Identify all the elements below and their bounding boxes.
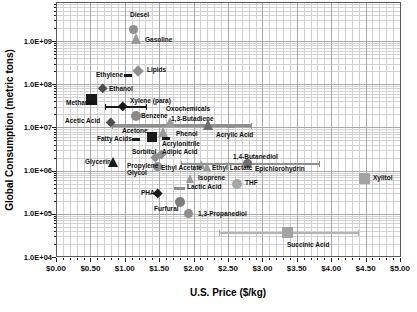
point-label: Ethanol (109, 85, 133, 92)
y-axis-title: Global Consumption (metric tons) (4, 49, 15, 211)
marker-ethanol (98, 83, 108, 93)
point-label: Sorbitol (132, 148, 157, 155)
x-axis-title: U.S. Price ($/kg) (190, 287, 266, 298)
marker-ethyl-lactate (203, 162, 211, 171)
point-label: Lactic Acid (187, 183, 221, 190)
chart-canvas: 1.0E+041.0E+051.0E+061.0E+071.0E+081.0E+… (0, 0, 417, 312)
point-label: Oxochemicals (166, 105, 210, 112)
marker-lipids (132, 65, 143, 76)
marker-succinic-acid (282, 227, 293, 238)
point-label: Phenol (176, 130, 198, 137)
point-label: 1,3-Propanediol (198, 210, 247, 217)
point-label: Glycerin (85, 158, 111, 165)
marker-acrylic-acid (227, 125, 235, 128)
point-label: Diesel (130, 11, 149, 18)
error-bar-cap (251, 123, 252, 129)
marker-benzene (131, 111, 141, 121)
error-bar-cap (105, 104, 106, 110)
point-label: Succinic Acid (287, 241, 329, 248)
marker-acetone (147, 132, 157, 142)
point-label: Furfural (154, 205, 179, 212)
marker-ethylene (124, 74, 132, 77)
point-label: Xylitol (373, 174, 393, 181)
error-bar-cap (219, 230, 220, 236)
point-label: Ethyl Lactate (212, 164, 252, 171)
point-label: 1,3-Butadiene (171, 115, 214, 122)
point-label: Gasoline (145, 36, 172, 43)
point-label: Epichlorohydrin (255, 165, 305, 172)
point-label: Benzene (141, 112, 168, 119)
error-bar-cap (146, 104, 147, 110)
marker-gasoline (131, 33, 141, 44)
point-label: Lipids (147, 66, 166, 73)
point-label: Acetic Acid (65, 117, 100, 124)
point-label: Ethylene (96, 71, 123, 78)
marker-thf (232, 179, 242, 189)
point-label: Acrylonitrile (162, 140, 200, 147)
point-label: Propylene Glycol (127, 162, 158, 176)
point-label: Xylene (para) (130, 97, 171, 104)
marker-xylene-para- (118, 102, 128, 112)
marker-lactic-acid (174, 187, 185, 190)
point-label: Adipic Acid (162, 148, 198, 155)
point-label: Acrylic Acid (216, 131, 253, 138)
point-label: Isoprene (198, 174, 225, 181)
point-label: 1,4-Butanediol (233, 153, 278, 160)
point-label: Acetone (122, 127, 148, 134)
error-bar-cap (319, 161, 320, 167)
data-points-layer: DieselGasolineLipidsEthyleneEthanolMetha… (0, 0, 417, 312)
error-bar-cap (358, 230, 359, 236)
marker-xylitol (359, 173, 370, 184)
marker-isoprene (186, 174, 194, 183)
marker-phenol (158, 127, 168, 137)
point-label: Methanol (66, 99, 95, 106)
point-label: Fatty Acids (97, 135, 132, 142)
point-label: Ethyl Acetate (161, 164, 202, 171)
marker-fatty-acids (132, 138, 140, 141)
point-label: THF (245, 179, 258, 186)
marker-1-3-propanediol (184, 209, 193, 218)
point-label: PHA (141, 189, 155, 196)
